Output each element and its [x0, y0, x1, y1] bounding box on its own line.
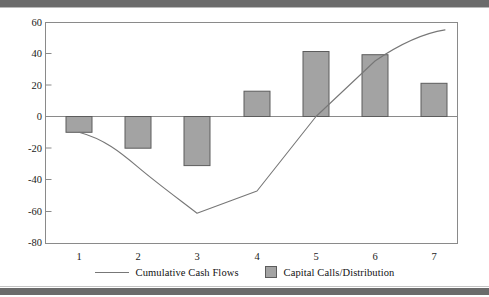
bar-4	[244, 91, 270, 116]
legend-label-capital-calls-distribution: Capital Calls/Distribution	[284, 267, 395, 278]
bar-3	[184, 117, 210, 166]
line-marker-icon	[95, 272, 129, 273]
bottom-rule	[0, 288, 489, 295]
bar-1	[66, 117, 92, 133]
bar-swatch-icon	[265, 266, 277, 278]
bar-7	[421, 83, 447, 116]
chart-legend: Cumulative Cash Flows Capital Calls/Dist…	[0, 266, 489, 278]
bar-2	[125, 117, 151, 149]
bar-6	[362, 55, 388, 117]
axes-frame	[46, 23, 458, 244]
bar-series	[66, 52, 447, 166]
figure: 60 40 20 0 -20 -40 -60 -80 1 2 3 4 5 6 7	[0, 0, 489, 297]
legend-item-capital-calls-distribution: Capital Calls/Distribution	[265, 266, 395, 278]
y-axis-ticks	[46, 54, 52, 212]
plot-area	[0, 0, 489, 297]
bar-5	[303, 52, 329, 117]
legend-item-cumulative-cash-flows: Cumulative Cash Flows	[95, 267, 239, 278]
legend-label-cumulative-cash-flows: Cumulative Cash Flows	[136, 267, 239, 278]
